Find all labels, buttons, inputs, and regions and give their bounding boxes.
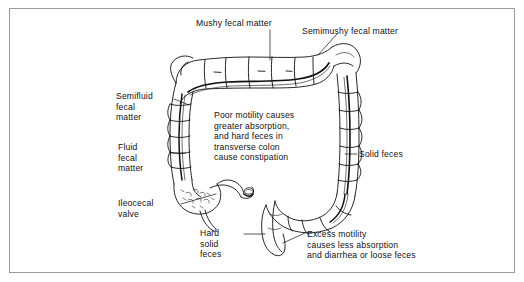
leader-excess-motility	[283, 233, 305, 243]
colon-diagram-figure: Mushy fecal matter Semimushy fecal matte…	[0, 0, 524, 282]
cecum	[174, 180, 254, 214]
label-poor-motility-note: Poor motility causes greater absorption,…	[214, 110, 340, 163]
label-excess-motility-note: Excess motility causes less absorption a…	[307, 229, 467, 261]
label-semimushy-fecal-matter: Semimushy fecal matter	[302, 26, 398, 37]
ileocecal-valve	[181, 189, 214, 208]
rectum	[262, 201, 285, 256]
label-semifluid-fecal-matter: Semifluid fecal matter	[116, 91, 172, 123]
label-solid-feces: Solid feces	[359, 149, 403, 160]
label-hard-solid-feces: Hard solid feces	[200, 228, 242, 260]
transverse-colon	[176, 47, 334, 104]
hepatic-flexure	[171, 56, 193, 83]
descending-colon	[337, 73, 362, 196]
label-ileocecal-valve: Ileocecal valve	[118, 198, 178, 219]
label-fluid-fecal-matter: Fluid fecal matter	[118, 142, 168, 174]
label-mushy-fecal-matter: Mushy fecal matter	[196, 18, 272, 29]
leader-semimushy	[318, 34, 337, 55]
splenic-flexure	[332, 44, 360, 73]
